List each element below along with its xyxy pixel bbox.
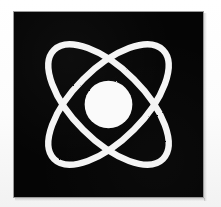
screenshot-canvas <box>0 0 221 207</box>
nucleus <box>85 81 133 129</box>
atom-icon <box>14 12 203 197</box>
picture-frame <box>13 11 204 198</box>
